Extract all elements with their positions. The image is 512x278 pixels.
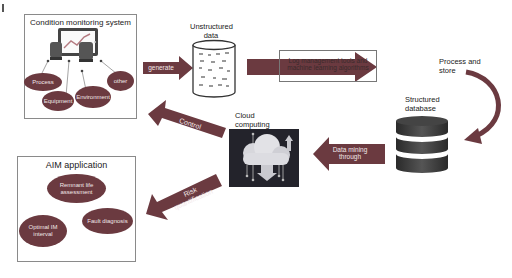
node-other: other <box>107 71 134 91</box>
generate-label: generate <box>144 64 178 71</box>
node-optimal-im-interval: Optimal IM interval <box>19 215 67 247</box>
cloud-computing-label: Cloud computing <box>235 111 275 129</box>
database-icon <box>395 116 449 174</box>
unstructured-data-label: Unstructured data <box>190 22 232 40</box>
page-marker <box>2 4 4 12</box>
curved-arrow <box>460 70 510 150</box>
aim-application-title: AIM application <box>18 160 135 170</box>
log-management-label: Log management tools and machine learnin… <box>283 57 373 72</box>
cylinder-icon <box>192 40 236 98</box>
node-process: Process <box>24 73 62 91</box>
node-environment: Environment <box>75 86 111 108</box>
data-mining-label: Data mining through <box>328 146 372 161</box>
node-remnant-life: Remnant life assessment <box>47 174 106 203</box>
node-equipment: Equipment <box>42 91 74 111</box>
cloud-computing-icon <box>229 129 299 187</box>
structured-database-label: Structured database <box>405 95 455 113</box>
node-fault-diagnosis: Fault diagnosis <box>82 208 133 234</box>
